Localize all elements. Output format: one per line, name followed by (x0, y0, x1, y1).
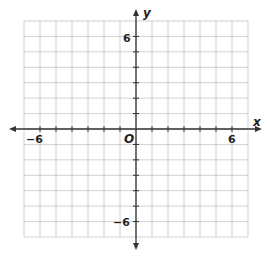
y-axis-label: y (143, 7, 151, 19)
y-tick-label-6: 6 (123, 33, 131, 44)
y-tick-label-neg6: −6 (113, 217, 130, 228)
x-tick-label-6: 6 (228, 134, 236, 145)
origin-label: O (124, 133, 134, 145)
x-tick-label-neg6: −6 (26, 134, 43, 145)
coordinate-plane (0, 0, 267, 256)
x-axis-label: x (253, 116, 261, 128)
axes (9, 9, 262, 250)
